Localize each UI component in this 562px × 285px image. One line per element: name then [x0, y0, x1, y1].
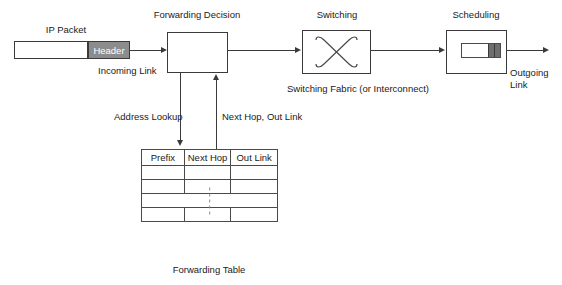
table-cell-out-link [231, 208, 278, 222]
address-lookup-label: Address Lookup [114, 112, 183, 122]
address-lookup-line [180, 73, 181, 141]
table-header-next-hop: Next Hop [184, 150, 231, 166]
table-cell-out-link [231, 166, 278, 180]
table-header-row: Prefix Next Hop Out Link [142, 150, 278, 166]
table-cell-next-hop [184, 166, 231, 180]
table-cell-prefix [142, 180, 185, 194]
next-hop-arrow-icon [213, 74, 219, 80]
outgoing-link-line [507, 50, 544, 51]
table-cell-next-hop [184, 208, 231, 222]
table-ellipsis-row [142, 194, 278, 208]
table-header-out-link: Out Link [231, 150, 278, 166]
outgoing-link-arrow-icon [543, 47, 549, 53]
forwarding-decision-box [167, 32, 228, 73]
router-architecture-diagram: IP Packet Header Incoming Link Forwardin… [0, 0, 562, 285]
table-header-prefix: Prefix [142, 150, 185, 166]
switching-to-scheduling-line [371, 50, 440, 51]
forwarding-table-caption: Forwarding Table [173, 265, 246, 275]
switching-label: Switching [317, 10, 358, 20]
table-cell-out-link [231, 180, 278, 194]
scheduling-label: Scheduling [452, 10, 499, 20]
clipped-top-text [0, 0, 562, 2]
table-ellipsis-cell [142, 194, 278, 208]
ip-packet-label: IP Packet [46, 25, 87, 35]
outgoing-link-label-line1: Outgoing [510, 68, 549, 78]
next-hop-out-link-label: Next Hop, Out Link [222, 112, 302, 122]
table-cell-prefix [142, 166, 185, 180]
outgoing-link-label-line2: Link [510, 80, 527, 90]
ip-packet-payload [14, 41, 88, 59]
incoming-link-label: Incoming Link [98, 66, 157, 76]
queue-cell [494, 44, 500, 57]
fd-to-switching-arrow-icon [295, 47, 301, 53]
switching-fabric-box [302, 30, 371, 74]
table-cell-prefix [142, 208, 185, 222]
table-cell-next-hop [184, 180, 231, 194]
crossbar-x-icon [303, 31, 370, 73]
fd-to-switching-line [228, 50, 296, 51]
switching-to-scheduling-arrow-icon [439, 47, 445, 53]
table-row [142, 166, 278, 180]
address-lookup-arrow-icon [177, 140, 183, 146]
switching-fabric-caption: Switching Fabric (or Interconnect) [287, 84, 429, 94]
vertical-ellipsis-icon [209, 187, 211, 214]
packet-queue-icon [461, 43, 501, 58]
forwarding-decision-label: Forwarding Decision [154, 10, 241, 20]
forwarding-table: Prefix Next Hop Out Link [141, 149, 278, 222]
next-hop-line [216, 80, 217, 149]
incoming-link-line [130, 50, 162, 51]
ip-packet-header: Header [88, 41, 130, 59]
